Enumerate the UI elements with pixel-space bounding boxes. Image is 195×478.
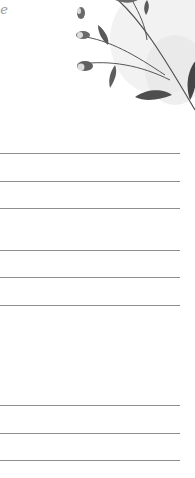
writing-line xyxy=(0,277,180,278)
script-heading-fragment: le xyxy=(0,2,8,17)
writing-line xyxy=(0,433,180,434)
botanical-leaf-branch-icon xyxy=(50,0,195,115)
writing-line xyxy=(0,460,180,461)
writing-line xyxy=(0,405,180,406)
writing-line xyxy=(0,208,180,209)
writing-line xyxy=(0,250,180,251)
writing-line xyxy=(0,305,180,306)
writing-line xyxy=(0,153,180,154)
writing-line xyxy=(0,181,180,182)
